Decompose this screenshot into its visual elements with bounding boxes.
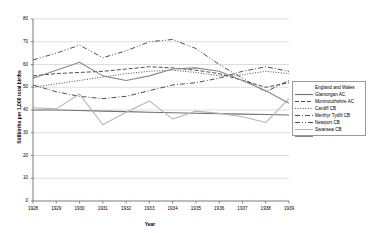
x-tick-label: 1932 (113, 206, 139, 211)
y-tick-label: 80 (12, 16, 28, 21)
legend-item[interactable]: England and Wales (294, 84, 364, 91)
legend-item[interactable]: Merthyr Tydfil CB (294, 112, 364, 119)
chart-legend: England and WalesGlamorgan ACMonmouthshi… (292, 81, 366, 136)
legend-line-swatch (294, 105, 314, 112)
x-tick-label: 1931 (90, 206, 116, 211)
y-tick-label: 60 (12, 62, 28, 67)
legend-label: Swansea CB (314, 126, 342, 133)
legend-line-swatch (294, 91, 314, 98)
y-tick-label: 10 (12, 175, 28, 180)
chart-container: Stillbirths per 1,000 total births Year … (0, 0, 371, 233)
y-tick-label: 70 (12, 39, 28, 44)
legend-label: Glamorgan AC (314, 91, 345, 98)
y-tick-label: 30 (12, 130, 28, 135)
legend-item[interactable]: Newport CB (294, 119, 364, 126)
x-tick-label: 1938 (253, 206, 279, 211)
x-tick-label: 1930 (67, 206, 93, 211)
x-tick-label: 1936 (206, 206, 232, 211)
legend-label: Newport CB (314, 119, 340, 126)
legend-item[interactable]: Glamorgan AC (294, 91, 364, 98)
x-tick-label: 1929 (43, 206, 69, 211)
legend-label: Merthyr Tydfil CB (314, 112, 350, 119)
x-tick-label: 1937 (229, 206, 255, 211)
x-tick-label: 1928 (20, 206, 46, 211)
legend-label: England and Wales (314, 84, 355, 91)
y-tick-label: 0 (12, 198, 28, 203)
legend-line-swatch (294, 126, 314, 133)
y-tick-label: 20 (12, 153, 28, 158)
legend-item[interactable]: Monmouthshire AC (294, 98, 364, 105)
legend-label: Monmouthshire AC (314, 98, 354, 105)
legend-line-swatch (294, 119, 314, 126)
legend-line-swatch (294, 98, 314, 105)
legend-item[interactable]: Swansea CB (294, 126, 364, 133)
legend-label: Cardiff CB (314, 105, 336, 112)
legend-item[interactable]: Cardiff CB (294, 105, 364, 112)
x-tick-label: 1933 (136, 206, 162, 211)
x-tick-label: 1934 (160, 206, 186, 211)
y-tick-label: 40 (12, 107, 28, 112)
x-tick-label: 1939 (276, 206, 302, 211)
y-tick-label: 50 (12, 84, 28, 89)
x-tick-label: 1935 (183, 206, 209, 211)
legend-line-swatch (294, 112, 314, 119)
legend-line-swatch (294, 84, 314, 91)
x-axis-title: Year (0, 221, 300, 227)
